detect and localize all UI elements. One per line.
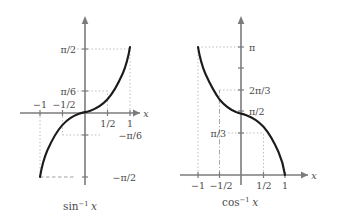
arccos-caption: cos−1x — [222, 196, 258, 208]
arcsin-xlabel-half: 1/2 — [100, 118, 115, 129]
arccos-ylabel-pi2: π/2 — [249, 106, 265, 117]
arccos-xlabel-neg1: −1 — [191, 180, 205, 191]
arccos-xlabel-half: 1/2 — [256, 180, 271, 191]
arcsin-xlabel-neghalf: −1/2 — [52, 99, 75, 110]
arcsin-xlabel-one: 1 — [127, 118, 133, 129]
math-figure-svg: π/2 π/6 −π/6 −π/2 −1 −1/2 1/2 1 x sin−1x — [0, 0, 337, 223]
svg-text:sin−1x: sin−1x — [63, 200, 97, 212]
arcsin-caption-arg: x — [91, 200, 97, 212]
arcsin-xlabel-neg1: −1 — [33, 99, 47, 110]
arcsin-plot: π/2 π/6 −π/6 −π/2 −1 −1/2 1/2 1 x sin−1x — [20, 16, 149, 212]
arccos-xlabel-one: 1 — [282, 180, 288, 191]
arcsin-caption: sin−1x — [63, 200, 97, 212]
arccos-ylabel-pi3: π/3 — [211, 128, 227, 139]
x-axis-arrow — [133, 110, 140, 117]
arccos-caption-exp: −1 — [240, 196, 250, 204]
arcsin-y-axis — [82, 16, 89, 185]
arccos-x-axis-label: x — [311, 170, 317, 181]
arccos-caption-fn: cos — [222, 196, 240, 208]
arcsin-x-axis-label: x — [143, 108, 149, 119]
arcsin-ylabel-pi2: π/2 — [61, 44, 77, 55]
arcsin-ylabel-pi6: π/6 — [61, 86, 77, 97]
arccos-ylabel-2pi3: 2π/3 — [249, 85, 271, 96]
arccos-ylabel-pi: π — [249, 42, 255, 53]
svg-text:cos−1x: cos−1x — [222, 196, 258, 208]
arcsin-ylabel-neg-pi6: −π/6 — [119, 130, 142, 141]
x-axis-arrow — [301, 172, 308, 179]
arcsin-ylabel-neg-pi2: −π/2 — [113, 172, 136, 183]
arccos-plot: π 2π/3 π/2 π/3 −1 −1/2 1/2 1 x cos−1x — [180, 16, 317, 208]
arccos-xlabel-neghalf: −1/2 — [209, 180, 232, 191]
figure-root: π/2 π/6 −π/6 −π/2 −1 −1/2 1/2 1 x sin−1x — [0, 0, 337, 223]
y-axis-arrow — [82, 16, 89, 24]
arcsin-caption-fn: sin — [63, 200, 79, 212]
y-axis-arrow — [238, 16, 245, 24]
arccos-caption-arg: x — [252, 196, 258, 208]
arccos-y-axis — [238, 16, 245, 185]
arcsin-caption-exp: −1 — [79, 200, 89, 208]
arccos-x-axis — [180, 172, 308, 179]
